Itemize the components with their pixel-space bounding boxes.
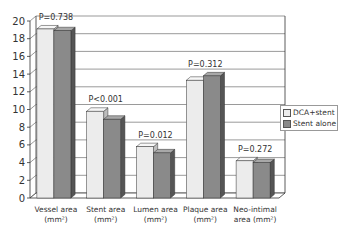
x-category-label: (mm²) — [44, 215, 68, 224]
y-tick-label: 8 — [19, 122, 25, 133]
y-tick-label: 20 — [12, 16, 25, 27]
bar-stent-alone — [54, 27, 75, 198]
x-category-label: Stent area — [86, 205, 125, 214]
y-tick-label: 2 — [19, 175, 25, 186]
x-axis-labels: Vessel area(mm²)Stent area(mm²)Lumen are… — [35, 205, 277, 224]
legend-label: DCA+stent — [293, 108, 335, 117]
p-value-label: P=0.012 — [138, 131, 172, 140]
p-value-label: P=0.738 — [39, 13, 73, 22]
legend-item-dca-stent: DCA+stent — [283, 107, 335, 118]
y-tick-label: 4 — [19, 157, 25, 168]
p-value-label: P=0.312 — [188, 60, 222, 69]
x-category-label: Lumen area — [133, 205, 178, 214]
bar-stent-alone — [104, 116, 125, 198]
x-category-label: Neo-intimal — [233, 205, 277, 214]
legend: DCA+stent Stent alone — [280, 105, 338, 131]
y-tick-label: 10 — [12, 104, 25, 115]
p-value-label: P<0.001 — [88, 95, 122, 104]
y-tick-label: 12 — [12, 86, 25, 97]
x-category-label: Vessel area — [35, 205, 78, 214]
y-tick-label: 18 — [12, 33, 25, 44]
y-tick-label: 0 — [19, 193, 25, 204]
x-category-label: area (mm²) — [234, 215, 277, 224]
bar-stent-alone — [154, 149, 175, 198]
x-category-label: (mm²) — [144, 215, 168, 224]
x-category-label: (mm²) — [94, 215, 118, 224]
p-value-label: P=0.272 — [238, 145, 272, 154]
y-tick-label: 14 — [12, 69, 25, 80]
legend-swatch-dca-stent — [283, 109, 291, 117]
bar-stent-alone — [203, 72, 224, 198]
legend-label: Stent alone — [293, 119, 336, 128]
y-tick-label: 16 — [12, 51, 25, 62]
bar-stent-alone — [253, 159, 274, 198]
y-tick-label: 6 — [19, 139, 25, 150]
x-category-label: (mm²) — [194, 215, 218, 224]
legend-swatch-stent-alone — [283, 120, 291, 128]
legend-item-stent-alone: Stent alone — [283, 118, 335, 129]
x-category-label: Plaque area — [183, 205, 227, 214]
